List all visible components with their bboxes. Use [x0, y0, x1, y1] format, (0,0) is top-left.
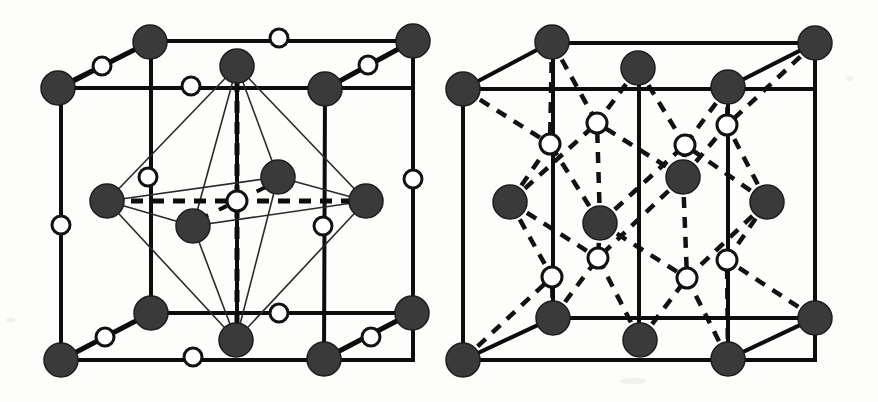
atom-filled-octahedron-bottom-apex[interactable]	[219, 323, 253, 357]
atom-open-body-centre[interactable]	[227, 191, 247, 211]
atom-open-front-right-edge[interactable]	[404, 170, 422, 188]
atom-open-left-vertical[interactable]	[139, 168, 157, 186]
atom-filled-back-top-left-corner[interactable]	[535, 25, 569, 59]
atom-open-tetra-site-left-upper[interactable]	[540, 134, 560, 154]
atom-filled-right-face-centre[interactable]	[750, 185, 784, 219]
octa-equator-c	[193, 201, 366, 226]
atom-open-tetra-site-top-left[interactable]	[587, 113, 607, 133]
atom-filled-front-top-left-corner[interactable]	[446, 72, 480, 106]
atom-filled-front-bottom-left-corner[interactable]	[446, 343, 480, 377]
atom-filled-back-top-right-corner[interactable]	[396, 24, 430, 58]
crystal-structure-svg	[0, 0, 878, 402]
atom-filled-back-bottom-left-corner[interactable]	[134, 296, 168, 330]
atom-open-bottom-right-edge[interactable]	[362, 328, 380, 346]
atom-filled-front-bottom-mid-face[interactable]	[307, 342, 341, 376]
atom-filled-back-bottom-right-corner[interactable]	[395, 296, 429, 330]
atom-filled-bottom-face-centre[interactable]	[623, 323, 657, 357]
atom-open-tetra-site-centre-upper[interactable]	[675, 135, 695, 155]
atom-filled-back-bottom-right-corner[interactable]	[798, 301, 832, 335]
atom-filled-front-top-mid-face[interactable]	[711, 70, 745, 104]
atom-filled-front-top-mid-face[interactable]	[308, 72, 342, 106]
paper-speck-3	[620, 378, 646, 384]
octa-edge-bot-right	[236, 201, 366, 340]
atom-filled-top-face-centre[interactable]	[621, 51, 655, 85]
atom-filled-lower-left-equatorial[interactable]	[176, 209, 210, 243]
atom-filled-inner-lower-left[interactable]	[583, 206, 617, 240]
atom-filled-right-equatorial[interactable]	[349, 184, 383, 218]
atom-open-bottom-left-edge[interactable]	[96, 328, 114, 346]
atom-open-back-bottom-edge[interactable]	[270, 304, 288, 322]
left-unit-cell	[41, 24, 430, 377]
atom-filled-front-bottom-left-corner[interactable]	[44, 343, 78, 377]
atom-filled-front-top-left-corner[interactable]	[41, 71, 75, 105]
right-unit-cell	[446, 25, 832, 377]
octa-edge-bot-frontL	[193, 226, 236, 340]
atom-open-front-bottom-left[interactable]	[184, 348, 202, 366]
atom-filled-back-top-left-corner[interactable]	[133, 25, 167, 59]
atom-open-tetra-site-bottom-left[interactable]	[588, 248, 608, 268]
atom-filled-upper-right-equatorial[interactable]	[261, 160, 295, 194]
atom-open-back-top-left-edge[interactable]	[182, 77, 200, 95]
atom-filled-inner-upper-right[interactable]	[666, 160, 700, 194]
atom-filled-back-top-right-corner[interactable]	[798, 26, 832, 60]
atom-filled-octahedron-top-apex[interactable]	[220, 49, 254, 83]
atom-filled-front-bottom-mid-face[interactable]	[711, 342, 745, 376]
atom-filled-left-equatorial[interactable]	[90, 184, 124, 218]
atom-open-back-top-edge[interactable]	[270, 29, 288, 47]
atom-open-front-left-edge[interactable]	[52, 216, 70, 234]
paper-speck-1	[6, 318, 15, 322]
paper-speck-2	[846, 76, 853, 81]
atom-filled-left-face-centre[interactable]	[493, 185, 527, 219]
octa-equator-a	[107, 177, 278, 201]
atom-open-tetra-site-centre-lower[interactable]	[677, 268, 697, 288]
atom-open-top-right-edge[interactable]	[359, 56, 377, 74]
atom-open-right-inner[interactable]	[314, 217, 332, 235]
atom-open-top-left-edge[interactable]	[93, 57, 111, 75]
atom-open-tetra-site-bottom-right[interactable]	[717, 250, 737, 270]
atom-open-tetra-site-top-right[interactable]	[717, 115, 737, 135]
atom-filled-back-bottom-left-corner[interactable]	[536, 301, 570, 335]
crystal-structure-figure	[0, 0, 878, 402]
atom-open-tetra-site-left-lower[interactable]	[542, 267, 562, 287]
